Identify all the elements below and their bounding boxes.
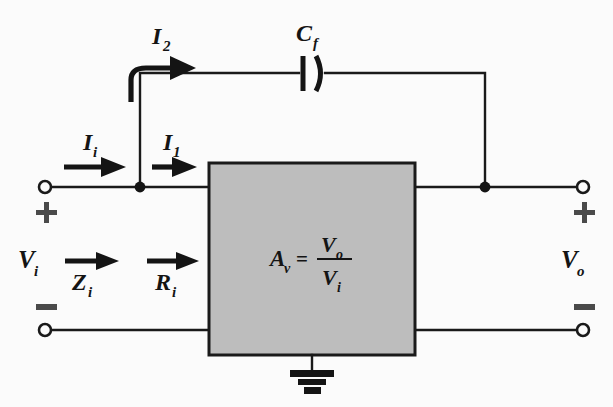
circuit-diagram-canvas: I 2 C f I i I 1 V i V o Z	[0, 0, 613, 407]
svg-text:1: 1	[173, 144, 181, 160]
svg-text:i: i	[88, 284, 93, 300]
output-junction-node	[480, 182, 491, 193]
svg-text:i: i	[337, 280, 341, 295]
label-i1: I 1	[162, 129, 181, 160]
svg-text:i: i	[34, 263, 39, 279]
svg-text:A: A	[268, 246, 285, 271]
label-ii: I i	[82, 129, 98, 160]
input-plus-sign	[36, 202, 57, 223]
label-vo: V o	[561, 246, 585, 279]
label-vi: V i	[18, 246, 39, 279]
svg-text:R: R	[154, 269, 171, 295]
svg-text:f: f	[313, 35, 320, 51]
output-minus-sign	[574, 304, 595, 310]
arrow-i1	[152, 157, 197, 177]
label-cf: C f	[296, 20, 320, 51]
input-negative-terminal[interactable]	[39, 324, 51, 336]
svg-text:o: o	[577, 263, 585, 279]
input-junction-node	[135, 182, 146, 193]
label-zi: Z i	[71, 269, 93, 300]
svg-text:v: v	[284, 261, 291, 276]
label-i2: I 2	[151, 23, 171, 54]
label-ri: R i	[154, 269, 177, 300]
svg-text:C: C	[296, 20, 313, 46]
svg-text:=: =	[296, 247, 308, 271]
arrow-ri	[147, 252, 199, 270]
output-plus-sign	[574, 202, 595, 223]
voltage-amplifier-block	[209, 163, 415, 355]
input-minus-sign	[36, 304, 57, 310]
arrow-ii	[64, 157, 126, 177]
circuit-diagram-figure: I 2 C f I i I 1 V i V o Z	[0, 0, 613, 407]
svg-text:i: i	[172, 284, 177, 300]
svg-text:Z: Z	[71, 269, 87, 295]
output-negative-terminal[interactable]	[577, 324, 589, 336]
feedback-capacitor	[303, 56, 321, 91]
svg-text:i: i	[93, 144, 98, 160]
svg-text:2: 2	[162, 38, 171, 54]
output-positive-terminal[interactable]	[577, 181, 589, 193]
chassis-ground	[290, 355, 334, 394]
arrow-zi	[65, 252, 119, 270]
input-positive-terminal[interactable]	[39, 181, 51, 193]
svg-text:I: I	[151, 23, 163, 49]
